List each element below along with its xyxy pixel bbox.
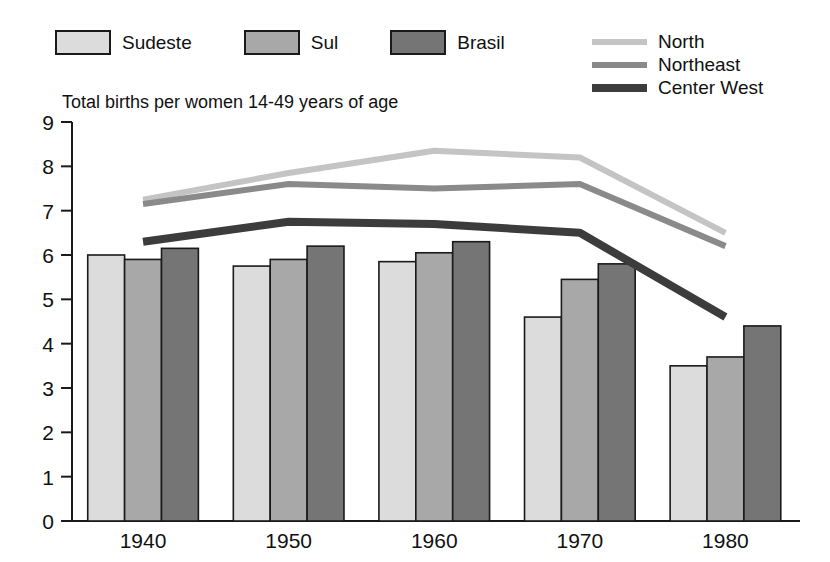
bar-sudeste-1980 — [670, 366, 707, 521]
births-chart: Sudeste Sul Brasil North Northeast Cente… — [0, 0, 830, 562]
ytick-label-0: 0 — [42, 510, 54, 533]
xtick-label-1980: 1980 — [702, 529, 749, 552]
ytick-label-7: 7 — [42, 200, 54, 223]
bar-sudeste-1950 — [233, 266, 270, 521]
bar-brasil-1970 — [598, 264, 635, 521]
bar-sul-1980 — [707, 357, 744, 521]
ytick-label-8: 8 — [42, 155, 54, 178]
ytick-label-3: 3 — [42, 377, 54, 400]
bar-sul-1970 — [561, 279, 598, 521]
ytick-label-1: 1 — [42, 466, 54, 489]
bar-brasil-1960 — [453, 242, 490, 521]
xtick-label-1960: 1960 — [411, 529, 458, 552]
xtick-label-1940: 1940 — [120, 529, 167, 552]
bar-brasil-1980 — [744, 326, 781, 521]
bar-sudeste-1970 — [525, 317, 562, 521]
bar-sudeste-1960 — [379, 262, 416, 521]
bar-sul-1940 — [125, 259, 162, 521]
bar-sul-1960 — [416, 253, 453, 521]
bar-sudeste-1940 — [88, 255, 125, 521]
bars — [88, 242, 781, 521]
ytick-label-4: 4 — [42, 333, 54, 356]
ytick-label-6: 6 — [42, 244, 54, 267]
plot-area: 012345678919401950196019701980 — [0, 0, 830, 562]
bar-sul-1950 — [270, 259, 307, 521]
ytick-label-5: 5 — [42, 288, 54, 311]
ytick-label-9: 9 — [42, 111, 54, 134]
ytick-label-2: 2 — [42, 421, 54, 444]
xtick-label-1950: 1950 — [265, 529, 312, 552]
xtick-label-1970: 1970 — [556, 529, 603, 552]
bar-brasil-1950 — [307, 246, 344, 521]
line-northeast — [143, 184, 725, 246]
bar-brasil-1940 — [161, 248, 198, 521]
